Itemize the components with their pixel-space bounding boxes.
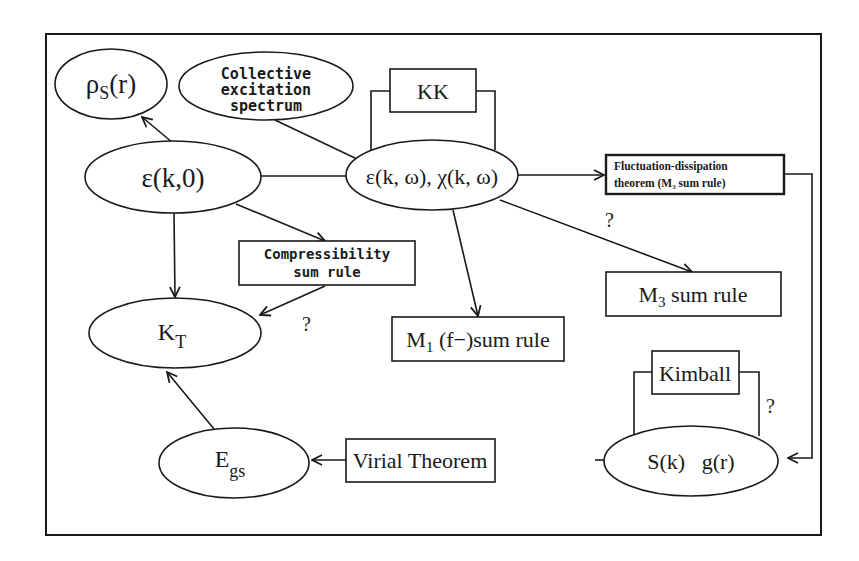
- edge-egs-to-kt: [167, 372, 214, 429]
- node-sk-gr-label: S(k) g(r): [647, 449, 734, 474]
- node-fd-line1: Fluctuation-dissipation: [614, 160, 728, 173]
- node-m1-sum-rule: M1 (f−)sum rule: [392, 317, 564, 361]
- node-egs: Egs: [159, 428, 309, 498]
- node-virial-label: Virial Theorem: [353, 448, 488, 473]
- edge-collective-to-eps-kw: [275, 120, 357, 159]
- node-eps-k0-label: ε(k,0): [141, 163, 204, 193]
- edge-sk-gr-to-kimball-left: [634, 372, 652, 434]
- node-rho-s-label: ρS(r): [86, 69, 136, 103]
- node-m3-label: M3 sum rule: [639, 282, 748, 310]
- node-kimball: Kimball: [652, 351, 739, 394]
- node-compressibility-line2: sum rule: [293, 264, 360, 280]
- node-rho-s: ρS(r): [55, 49, 167, 119]
- node-kk: KK: [390, 69, 476, 112]
- edge-eps-k0-to-rho-s: [142, 117, 173, 143]
- diagram-canvas: ρS(r) Collective excitation spectrum KK …: [0, 0, 859, 561]
- node-compressibility-line1: Compressibility: [264, 246, 391, 262]
- question-kimball: ?: [766, 395, 775, 417]
- node-fluctuation-dissipation: Fluctuation-dissipation theorem (M₃ sum …: [606, 155, 784, 194]
- node-eps-kw: ε(k, ω), χ(k, ω): [346, 140, 518, 210]
- node-sk-gr: S(k) g(r): [604, 426, 778, 496]
- node-eps-kw-label: ε(k, ω), χ(k, ω): [366, 164, 498, 189]
- node-kk-label: KK: [417, 79, 449, 104]
- node-kt: KT: [89, 298, 261, 368]
- node-compressibility: Compressibility sum rule: [239, 241, 415, 285]
- edge-fd-to-sk-gr: [784, 174, 812, 458]
- edge-eps-kw-to-m1: [453, 210, 478, 316]
- node-eps-k0: ε(k,0): [85, 141, 261, 213]
- edge-eps-kw-to-kk-left: [371, 91, 390, 150]
- node-collective-line3: spectrum: [230, 97, 302, 115]
- edge-eps-kw-to-kk-right: [476, 91, 495, 150]
- node-fd-line2: theorem (M₃ sum rule): [614, 177, 726, 190]
- node-virial-theorem: Virial Theorem: [346, 439, 495, 482]
- edge-eps-k0-to-compressibility: [236, 204, 325, 241]
- question-eps-kw-to-m3: ?: [605, 209, 614, 231]
- node-kimball-label: Kimball: [659, 361, 731, 386]
- edge-eps-kw-to-m3: [500, 200, 692, 272]
- edge-eps-k0-to-kt: [174, 213, 175, 297]
- question-compressibility-to-kt: ?: [302, 313, 311, 335]
- node-collective-excitation: Collective excitation spectrum: [179, 52, 353, 120]
- edge-compressibility-to-kt: [260, 286, 325, 315]
- edge-sk-gr-to-kimball-right: [739, 372, 759, 436]
- node-m3-sum-rule: M3 sum rule: [606, 272, 781, 316]
